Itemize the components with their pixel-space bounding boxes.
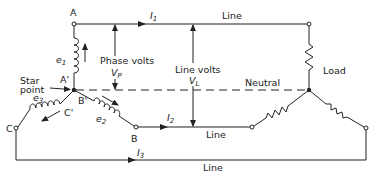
- label-current-1: I1: [150, 10, 157, 23]
- label-line-volts-symbol: VL: [189, 75, 200, 88]
- label-terminal-c: C: [6, 123, 13, 134]
- label-current-2: I2: [167, 112, 175, 125]
- current-arrow-3-icon: [128, 157, 136, 163]
- load-resistor-2: [254, 90, 309, 126]
- load-star-point: [307, 88, 311, 92]
- load-terminal-1: [307, 22, 311, 26]
- label-terminal-b-prime: B': [78, 95, 87, 106]
- label-terminal-b: B: [131, 133, 138, 144]
- terminal-a: [72, 22, 76, 26]
- label-load: Load: [323, 65, 346, 76]
- label-line-middle: Line: [206, 129, 226, 140]
- load-resistor-1: [305, 26, 313, 90]
- label-terminal-a-prime: A': [60, 74, 69, 85]
- label-neutral: Neutral: [245, 77, 280, 88]
- label-current-3: I3: [137, 147, 144, 160]
- label-line-volts: Line volts: [175, 64, 221, 75]
- label-emf-1: e1: [56, 54, 66, 67]
- emf-arrow-3-icon: [42, 111, 60, 121]
- load-terminal-2: [250, 125, 254, 129]
- terminal-c: [14, 126, 18, 130]
- current-arrow-1-icon: [138, 21, 146, 27]
- label-star-point-line2: point: [20, 84, 45, 95]
- label-line-bottom: Line: [203, 162, 223, 173]
- load-terminal-3: [364, 126, 368, 130]
- line-wire-2: [138, 124, 250, 130]
- star-point-pointer-icon: [50, 88, 70, 90]
- line-wire-3: [16, 130, 366, 163]
- terminal-b: [134, 125, 138, 129]
- label-emf-2: e2: [96, 113, 107, 126]
- phase-winding-1: [74, 26, 79, 90]
- label-phase-volts: Phase volts: [100, 55, 154, 66]
- current-arrow-2-icon: [160, 124, 168, 130]
- line-wire-1: [76, 21, 307, 27]
- label-terminal-a: A: [70, 7, 77, 18]
- label-phase-volts-symbol: VP: [111, 67, 123, 80]
- load-resistor-3: [309, 90, 364, 127]
- label-line-top: Line: [222, 10, 242, 21]
- star-connection-diagram: A A' B' B C' C e1 e2 e3 I1 I2 I3 Star po…: [0, 0, 375, 177]
- label-terminal-c-prime: C': [64, 107, 73, 118]
